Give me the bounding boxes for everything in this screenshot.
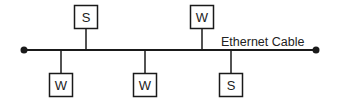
node-server-1: S [75, 6, 98, 51]
node-label: W [139, 78, 152, 93]
bus-network-diagram: Ethernet Cable S W W W S [0, 0, 337, 106]
node-label: S [227, 78, 236, 93]
ethernet-cable-label: Ethernet Cable [221, 35, 304, 49]
node-server-2: S [220, 50, 243, 97]
node-workstation-2: W [134, 50, 157, 97]
node-label: W [55, 78, 68, 93]
node-workstation-1: W [50, 50, 73, 97]
node-workstation-3: W [191, 6, 214, 51]
node-label: W [196, 10, 209, 25]
node-label: S [82, 10, 91, 25]
cable-terminator-left [21, 47, 28, 54]
cable-terminator-right [313, 47, 320, 54]
